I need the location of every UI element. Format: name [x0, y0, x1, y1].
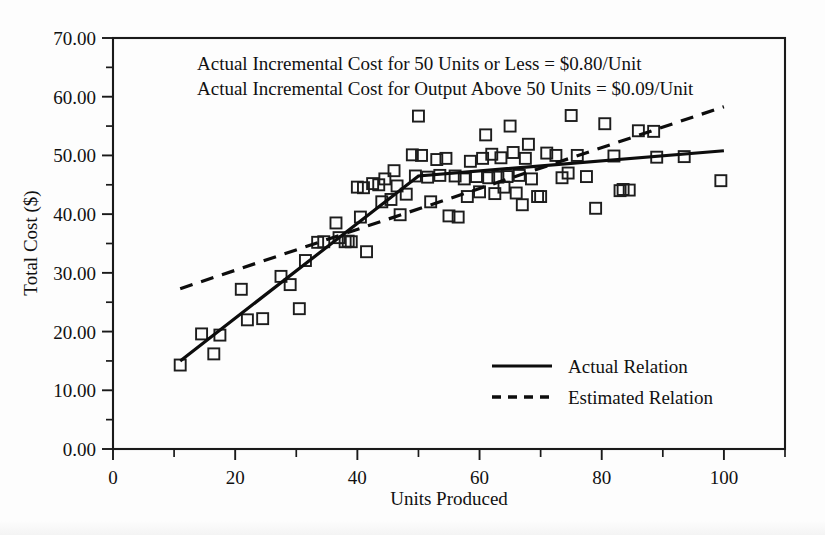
estimated-relation-line: [180, 107, 724, 289]
x-tick-label: 100: [710, 467, 739, 488]
data-point-marker: [413, 111, 424, 122]
data-point-marker: [330, 217, 341, 228]
y-tick-label: 60.00: [53, 87, 96, 108]
data-point-marker: [242, 314, 253, 325]
y-tick-label: 10.00: [53, 380, 96, 401]
data-point-marker: [532, 191, 543, 202]
x-axis-ticks: [113, 449, 785, 460]
data-point-marker: [566, 110, 577, 121]
data-point-marker: [462, 191, 473, 202]
data-point-marker: [480, 129, 491, 140]
y-axis-ticks: [102, 38, 113, 449]
y-tick-label: 0.00: [63, 439, 96, 460]
y-tick-label: 50.00: [53, 145, 96, 166]
x-tick-label: 40: [348, 467, 367, 488]
data-point-marker: [175, 360, 186, 371]
data-point-marker: [581, 171, 592, 182]
data-point-marker: [599, 118, 610, 129]
y-tick-label: 70.00: [53, 28, 96, 49]
y-axis-tick-labels: 0.0010.0020.0030.0040.0050.0060.0070.00: [53, 28, 96, 460]
legend-label-estimated: Estimated Relation: [568, 387, 714, 408]
data-point-marker: [523, 139, 534, 150]
x-tick-label: 0: [108, 467, 118, 488]
data-point-marker: [196, 328, 207, 339]
x-tick-label: 60: [470, 467, 489, 488]
y-tick-label: 20.00: [53, 322, 96, 343]
data-point-marker: [294, 303, 305, 314]
x-axis-tick-labels: 020406080100: [108, 467, 738, 488]
annotation-line-1: Actual Incremental Cost for 50 Units or …: [197, 53, 642, 74]
data-point-marker: [508, 147, 519, 158]
x-tick-label: 20: [226, 467, 245, 488]
data-point-marker: [257, 313, 268, 324]
data-point-marker: [208, 348, 219, 359]
y-axis-title: Total Cost ($): [20, 190, 42, 295]
legend-label-actual: Actual Relation: [568, 356, 688, 377]
data-point-marker: [465, 156, 476, 167]
data-point-marker: [526, 173, 537, 184]
data-point-marker: [361, 246, 372, 257]
data-point-marker: [590, 203, 601, 214]
data-point-marker: [535, 191, 546, 202]
figure-container: 0.0010.0020.0030.0040.0050.0060.0070.00 …: [0, 0, 825, 535]
cost-output-scatter-chart: 0.0010.0020.0030.0040.0050.0060.0070.00 …: [0, 0, 825, 535]
x-tick-label: 80: [592, 467, 611, 488]
data-point-marker: [236, 284, 247, 295]
data-point-marker: [425, 196, 436, 207]
chart-legend: Actual Relation Estimated Relation: [492, 356, 714, 408]
data-point-marker: [520, 153, 531, 164]
scatter-markers: [175, 110, 727, 371]
y-tick-label: 30.00: [53, 263, 96, 284]
x-axis-title: Units Produced: [390, 488, 508, 509]
data-point-marker: [517, 199, 528, 210]
data-point-marker: [715, 175, 726, 186]
data-point-marker: [505, 121, 516, 132]
y-tick-label: 40.00: [53, 204, 96, 225]
annotation-line-2: Actual Incremental Cost for Output Above…: [197, 78, 694, 99]
data-point-marker: [511, 188, 522, 199]
